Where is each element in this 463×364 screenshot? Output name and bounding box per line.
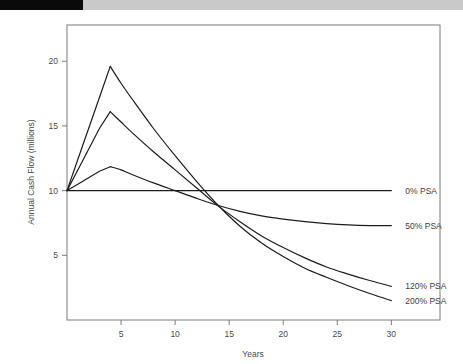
y-axis-title: Annual Cash Flow (millions) <box>26 119 36 225</box>
x-axis-ticks <box>121 320 391 325</box>
figure-page: 5101520 51015202530 0% PSA50% PSA120% PS… <box>0 0 463 364</box>
x-axis-tick-label: 25 <box>333 329 343 339</box>
y-axis-tick-label: 10 <box>49 186 59 196</box>
series-label-50-psa: 50% PSA <box>405 221 442 231</box>
y-axis-tick-labels: 5101520 <box>49 56 59 260</box>
y-axis-tick-label: 15 <box>49 121 59 131</box>
chart-canvas: 5101520 51015202530 0% PSA50% PSA120% PS… <box>0 0 463 364</box>
x-axis-tick-label: 5 <box>119 329 124 339</box>
x-axis-tick-label: 30 <box>387 329 397 339</box>
series-label-120-psa: 120% PSA <box>405 281 446 291</box>
x-axis-tick-label: 10 <box>170 329 180 339</box>
x-axis-tick-labels: 51015202530 <box>119 329 397 339</box>
x-axis-tick-label: 20 <box>278 329 288 339</box>
x-axis-tick-label: 15 <box>224 329 234 339</box>
series-label-200-psa: 200% PSA <box>405 296 446 306</box>
y-axis-tick-label: 5 <box>53 250 58 260</box>
plot-frame <box>67 25 440 320</box>
y-axis-ticks <box>62 61 67 255</box>
series-label-0-psa: 0% PSA <box>405 186 437 196</box>
x-axis-title: Years <box>242 349 263 359</box>
line-chart-figure: 5101520 51015202530 0% PSA50% PSA120% PS… <box>0 0 463 364</box>
y-axis-tick-label: 20 <box>49 56 59 66</box>
